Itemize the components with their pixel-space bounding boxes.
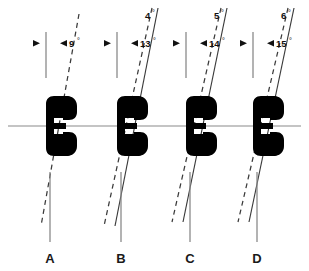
angle-label-a-primary: 9 [69,38,74,49]
degree-symbol-a-primary: ° [77,37,80,44]
seal-group-d: 15 ° 6 ° D [238,8,294,266]
technical-diagram: 9 ° A 13 ° 4 ° B [0,0,309,271]
arrow-left-icon-b [131,40,138,46]
degree-symbol-d-secondary: ° [288,9,291,16]
degree-symbol-c-primary: ° [222,37,225,44]
angle-label-b-secondary: 4 [145,10,151,21]
angle-label-d-primary: 15 [276,38,287,49]
arrow-left-icon-a [60,40,67,46]
degree-symbol-b-primary: ° [153,37,156,44]
angle-label-d-secondary: 6 [281,10,286,21]
arrow-right-icon-c [173,40,180,46]
arrow-right-icon-d [240,40,247,46]
seal-group-b: 13 ° 4 ° B [104,8,158,266]
arrow-left-icon-c [200,40,207,46]
angle-label-c-primary: 14 [209,38,220,49]
seal-group-a: 9 ° A [33,14,80,266]
seal-group-c: 14 ° 5 ° C [172,8,227,266]
arrow-right-icon-a [33,40,40,46]
angle-label-b-primary: 13 [140,38,151,49]
arrow-right-icon-b [104,40,111,46]
degree-symbol-b-secondary: ° [152,9,155,16]
degree-symbol-c-secondary: ° [221,9,224,16]
degree-symbol-d-primary: ° [289,37,292,44]
item-label-a: A [45,251,55,266]
diagram-canvas: 9 ° A 13 ° 4 ° B [0,0,309,271]
item-label-c: C [185,251,195,266]
angle-label-c-secondary: 5 [214,10,220,21]
arrow-left-icon-d [267,40,274,46]
item-label-d: D [252,251,261,266]
item-label-b: B [116,251,125,266]
